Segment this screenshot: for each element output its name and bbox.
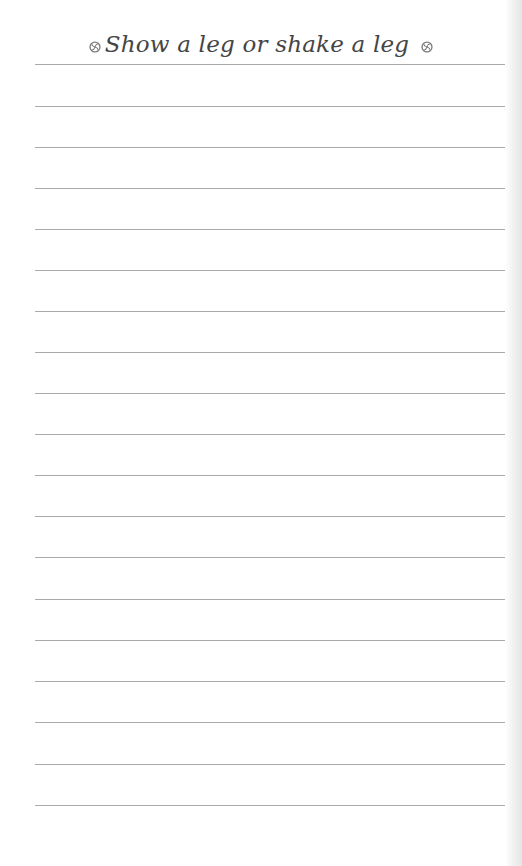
ruled-line [35,516,505,517]
ruled-line [35,599,505,600]
page-edge-shadow [505,0,522,866]
ruled-line [35,270,505,271]
ruled-line [35,229,505,230]
ruled-lines [35,0,505,866]
ruled-line [35,106,505,107]
ruled-line [35,640,505,641]
ruled-line [35,764,505,765]
ruled-line [35,557,505,558]
ruled-line [35,188,505,189]
ruled-line [35,681,505,682]
ruled-line [35,311,505,312]
ruled-line [35,147,505,148]
ruled-line [35,805,505,806]
ruled-line [35,475,505,476]
ruled-line [35,434,505,435]
ruled-line [35,393,505,394]
ruled-line [35,64,505,65]
ruled-line [35,722,505,723]
ruled-line [35,352,505,353]
